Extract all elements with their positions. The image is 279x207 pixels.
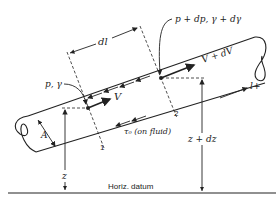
area-label: A [40, 130, 48, 140]
pipe-flow-diagram: dl V V + dV p, γ p + dp, γ + dγ A z z + … [0, 0, 279, 207]
pipe-right-end [255, 37, 266, 81]
shear-arrows-bottom [116, 116, 146, 126]
elevation-refs [62, 78, 206, 108]
pipe-bottom-edge [36, 83, 265, 152]
flow-direction-arrow [220, 88, 247, 98]
section-2-number: 2 [174, 109, 179, 118]
velocity-1-label: V [114, 91, 123, 102]
section2-props-label: p + dp, γ + dγ [175, 14, 242, 24]
leader-1 [64, 84, 86, 104]
dl-label: dl [98, 36, 108, 47]
pipe-left-end [15, 116, 36, 152]
leader-2 [159, 19, 172, 74]
z-plus-dz-label: z + dz [187, 134, 217, 144]
datum-label: Horiz. datum [108, 182, 154, 191]
shear-stress-label: τ₀ (on fluid) [124, 127, 171, 136]
z-label: z [61, 171, 67, 181]
velocity-arrow-1 [88, 99, 110, 108]
velocity-2-label: V + dV [201, 45, 236, 65]
section-line-2 [140, 26, 177, 118]
flow-direction-label: l+ [250, 81, 260, 91]
section-1-number: 1 [100, 143, 105, 152]
section1-props-label: p, γ [45, 79, 62, 89]
velocity-arrow-2 [161, 65, 194, 78]
